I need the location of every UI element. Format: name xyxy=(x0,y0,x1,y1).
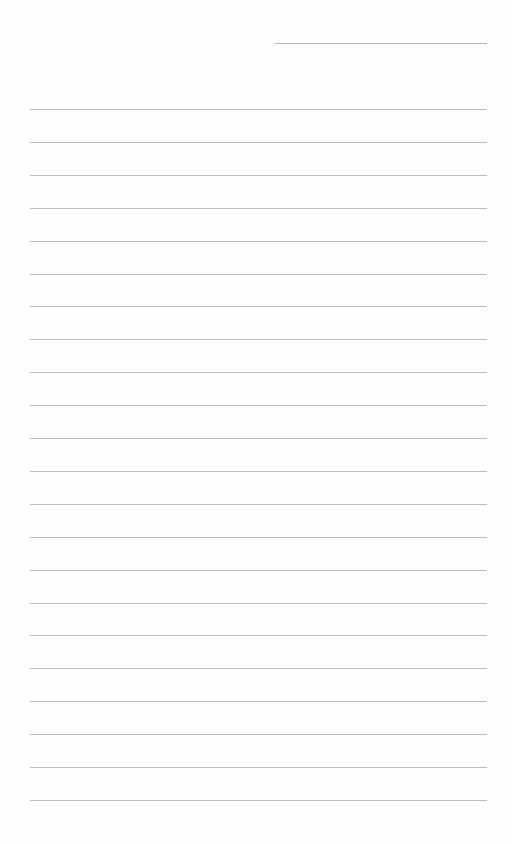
ruled-line xyxy=(30,372,487,373)
ruled-line xyxy=(30,208,487,209)
ruled-line xyxy=(30,668,487,669)
ruled-line xyxy=(30,800,487,801)
ruled-line xyxy=(30,274,487,275)
ruled-line xyxy=(30,109,487,110)
ruled-line xyxy=(30,471,487,472)
ruled-line xyxy=(30,175,487,176)
ruled-line xyxy=(30,767,487,768)
ruled-line xyxy=(30,701,487,702)
ruled-line xyxy=(30,635,487,636)
ruled-line xyxy=(30,241,487,242)
ruled-line xyxy=(30,734,487,735)
ruled-line xyxy=(30,405,487,406)
ruled-line xyxy=(30,537,487,538)
ruled-line xyxy=(30,306,487,307)
ruled-line xyxy=(30,438,487,439)
ruled-line xyxy=(30,339,487,340)
ruled-line xyxy=(30,142,487,143)
ruled-line xyxy=(30,570,487,571)
name-date-line xyxy=(275,43,487,44)
lined-paper-page xyxy=(0,0,512,844)
ruled-line xyxy=(30,603,487,604)
ruled-line xyxy=(30,504,487,505)
